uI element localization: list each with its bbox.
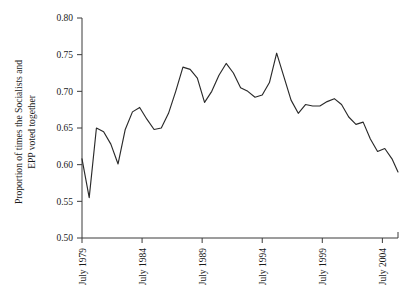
y-tick-label: 0.70 [56,87,73,97]
y-axis-ticks: 0.800.750.700.650.600.550.50 [56,13,82,243]
x-tick-label: July 1999 [318,248,328,285]
y-tick-label: 0.55 [56,197,73,207]
y-axis-title-line-1: Proportion of times the Socialists and [13,60,24,204]
y-tick-label: 0.75 [56,50,73,60]
line-chart: Proportion of times the Socialists and E… [0,0,417,302]
x-tick-label: July 1989 [198,248,208,285]
x-tick-label: July 2004 [378,248,388,285]
y-tick-label: 0.60 [56,160,73,170]
y-axis-title-line-2: EPP voted together [26,94,37,169]
x-tick-label: July 1979 [78,248,88,285]
chart-figure: Proportion of times the Socialists and E… [0,0,417,302]
x-tick-label: July 1984 [138,248,148,285]
y-tick-label: 0.65 [56,123,73,133]
x-tick-label: July 1994 [258,248,268,285]
y-tick-label: 0.50 [56,233,73,243]
series-line-socialists-epp [82,53,398,197]
y-axis-title: Proportion of times the Socialists and E… [13,60,37,204]
x-axis-ticks: July 1979July 1984July 1989July 1994July… [78,238,388,285]
y-tick-label: 0.80 [56,13,73,23]
